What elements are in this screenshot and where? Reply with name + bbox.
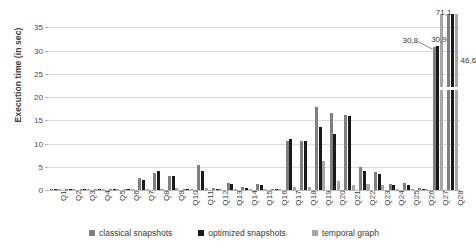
bar — [322, 161, 325, 190]
x-axis-tick-label: Q1 — [59, 190, 68, 201]
x-axis-tick-label: Q3 — [88, 190, 97, 201]
bar — [286, 141, 289, 190]
x-axis-tick-label: Q25 — [412, 190, 421, 206]
y-axis-tick-mark — [45, 167, 48, 168]
bar-group — [241, 18, 252, 190]
y-axis-tick-label: 25 — [34, 69, 43, 78]
bar-group — [212, 18, 223, 190]
bar — [447, 14, 450, 190]
bar — [300, 141, 303, 190]
x-axis-tick-label: Q9 — [177, 190, 186, 201]
legend-item[interactable]: classical snapshots — [89, 228, 172, 238]
bar-group — [256, 18, 267, 190]
legend-item[interactable]: temporal graph — [312, 228, 379, 238]
bar — [363, 171, 366, 190]
y-axis-tick-mark — [45, 120, 48, 121]
bar — [304, 141, 307, 190]
bar-group — [50, 18, 61, 190]
axis-break-mark — [440, 87, 443, 90]
x-axis-tick-label: Q23 — [383, 190, 392, 206]
legend-swatch-icon — [89, 230, 95, 236]
bar-group — [330, 18, 341, 190]
x-axis-tick-label: Q27 — [441, 190, 450, 206]
bar — [378, 174, 381, 190]
bar-group — [94, 18, 105, 190]
axis-break-mark — [447, 87, 450, 90]
x-axis-tick-label: Q10 — [191, 190, 200, 206]
bar-group — [138, 18, 149, 190]
y-axis-tick-label: 5 — [39, 162, 43, 171]
x-axis-tick-label: Q24 — [397, 190, 406, 206]
bar — [168, 176, 171, 190]
legend-swatch-icon — [312, 230, 318, 236]
y-axis-tick-label: 10 — [34, 139, 43, 148]
y-axis-tick-label: 35 — [34, 23, 43, 32]
legend-swatch-icon — [198, 230, 204, 236]
y-axis-tick-mark — [45, 51, 48, 52]
plot-area: 0510152025303530,830,971,146,6 — [48, 18, 460, 190]
bar-group — [183, 18, 194, 190]
x-axis-tick-label: Q5 — [118, 190, 127, 201]
bar-group — [447, 18, 458, 190]
bar — [348, 116, 351, 190]
bar-group — [389, 18, 400, 190]
y-axis-tick-mark — [45, 144, 48, 145]
y-axis-tick-mark — [45, 97, 48, 98]
legend-label: classical snapshots — [99, 228, 172, 238]
bar-group — [124, 18, 135, 190]
x-axis-tick-label: Q14 — [250, 190, 259, 206]
x-axis-tick-label: Q16 — [280, 190, 289, 206]
bar — [138, 178, 141, 190]
y-axis-tick-label: 20 — [34, 93, 43, 102]
x-axis-tick-labels: Q1Q2Q3Q4Q5Q6Q7Q8Q9Q10Q11Q12Q13Q14Q15Q16Q… — [48, 190, 460, 222]
x-axis-tick-label: Q2 — [74, 190, 83, 201]
x-axis-tick-label: Q7 — [147, 190, 156, 201]
bar-group — [80, 18, 91, 190]
bar — [172, 176, 175, 190]
bar — [436, 46, 439, 190]
bar — [337, 181, 340, 190]
bar-group — [344, 18, 355, 190]
bar-group — [374, 18, 385, 190]
y-axis-tick-label: 30 — [34, 46, 43, 55]
x-axis-tick-label: Q12 — [221, 190, 230, 206]
bar-group — [300, 18, 311, 190]
bar — [433, 47, 436, 190]
x-axis-tick-label: Q19 — [324, 190, 333, 206]
bar — [289, 139, 292, 190]
axis-break-mark — [451, 87, 454, 90]
bar-group — [65, 18, 76, 190]
y-axis-tick-label: 15 — [34, 116, 43, 125]
bar-group — [359, 18, 370, 190]
bar — [333, 134, 336, 190]
data-label: 71,1 — [436, 8, 452, 17]
y-axis-tick-label: 0 — [39, 186, 43, 195]
y-axis-tick-mark — [45, 74, 48, 75]
x-axis-tick-label: Q17 — [294, 190, 303, 206]
legend-label: optimized snapshots — [208, 228, 286, 238]
bar-group — [315, 18, 326, 190]
bar — [451, 14, 454, 190]
x-axis-tick-label: Q28 — [456, 190, 465, 206]
bar-group — [109, 18, 120, 190]
bar — [344, 115, 347, 190]
x-axis-tick-label: Q4 — [103, 190, 112, 201]
x-axis-tick-label: Q26 — [427, 190, 436, 206]
x-axis-tick-label: Q21 — [353, 190, 362, 206]
axis-break-mark — [455, 87, 458, 90]
y-axis-tick-mark — [45, 27, 48, 28]
bar — [157, 171, 160, 190]
bar — [330, 113, 333, 190]
x-axis-tick-label: Q15 — [265, 190, 274, 206]
legend-label: temporal graph — [322, 228, 379, 238]
bar-group — [168, 18, 179, 190]
data-label: 46,6 — [461, 56, 476, 65]
bar — [153, 173, 156, 190]
x-axis-tick-label: Q8 — [162, 190, 171, 201]
legend-item[interactable]: optimized snapshots — [198, 228, 286, 238]
bar — [374, 172, 377, 190]
x-axis-tick-label: Q18 — [309, 190, 318, 206]
chart-legend: classical snapshotsoptimized snapshotste… — [0, 228, 468, 238]
x-axis-tick-label: Q11 — [206, 190, 215, 205]
